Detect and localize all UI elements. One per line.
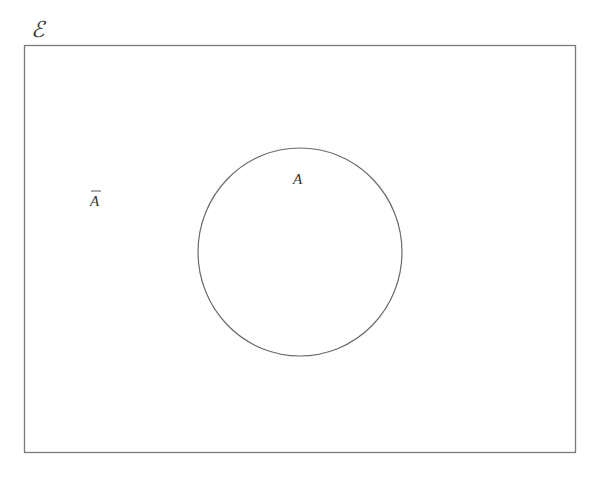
universal-set-label: ℰ (31, 17, 47, 42)
complement-a-label-group: A (89, 191, 101, 209)
set-a-label: A (292, 171, 303, 187)
complement-a-label: A (89, 193, 100, 209)
universal-set-box (25, 46, 576, 453)
venn-diagram: ℰ A A (0, 0, 606, 480)
